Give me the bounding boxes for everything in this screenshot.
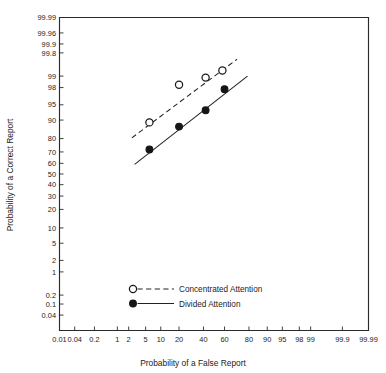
filled-circle-icon — [130, 300, 137, 307]
x-tick-label: 40 — [199, 335, 207, 344]
x-axis: 0.010.040.212510204060809095989999.999.9… — [52, 327, 377, 345]
y-tick-label: 2 — [52, 256, 56, 265]
open-circle-marker — [175, 81, 182, 88]
legend-entry-label: Concentrated Attention — [179, 285, 263, 294]
y-tick-label: 98 — [48, 83, 56, 92]
x-tick-label: 90 — [263, 335, 271, 344]
filled-circle-marker — [176, 123, 183, 130]
y-tick-label: 90 — [48, 116, 56, 125]
y-tick-label: 10 — [48, 224, 56, 233]
probability-plot-figure: 0.040.10.212510203040506070809095989999.… — [0, 0, 386, 373]
y-tick-label: 60 — [48, 159, 56, 168]
x-tick-label: 99.99 — [359, 335, 378, 344]
x-tick-label: 98 — [295, 335, 303, 344]
x-axis-title: Probability of a False Report — [140, 358, 246, 368]
axes-spines — [60, 18, 369, 331]
y-tick-label: 99.9 — [42, 40, 56, 49]
x-tick-label: 1 — [115, 335, 119, 344]
x-tick-label: 2 — [127, 335, 131, 344]
x-tick-label: 60 — [220, 335, 228, 344]
y-tick-label: 99.8 — [42, 49, 56, 58]
y-tick-label: 5 — [52, 239, 56, 248]
y-axis-title: Probability of a Correct Report — [5, 118, 15, 231]
x-tick-label: 99 — [307, 335, 315, 344]
y-tick-label: 80 — [48, 134, 56, 143]
x-tick-label: 95 — [278, 335, 286, 344]
x-tick-label: 20 — [175, 335, 183, 344]
y-tick-label: 99.96 — [38, 29, 57, 38]
y-tick-label: 99.99 — [38, 13, 57, 22]
x-tick-label: 5 — [144, 335, 148, 344]
open-circle-icon — [129, 285, 136, 292]
y-tick-label: 70 — [48, 148, 56, 157]
legend-entry-label: Divided Attention — [179, 300, 241, 309]
filled-circle-marker — [221, 86, 228, 93]
x-tick-label: 10 — [157, 335, 165, 344]
y-tick-label: 0.04 — [42, 311, 56, 320]
open-circle-marker — [146, 119, 153, 126]
x-tick-label: 0.2 — [89, 335, 99, 344]
chart-legend: Concentrated AttentionDivided Attention — [129, 285, 262, 309]
x-tick-label: 0.04 — [68, 335, 82, 344]
y-tick-label: 99 — [48, 72, 56, 81]
y-tick-label: 50 — [48, 170, 56, 179]
data-points — [146, 67, 228, 153]
y-tick-label: 0.1 — [46, 300, 56, 309]
x-tick-label: 80 — [245, 335, 253, 344]
open-circle-marker — [202, 74, 209, 81]
x-tick-label: 99.9 — [335, 335, 349, 344]
y-tick-label: 95 — [48, 100, 56, 109]
x-tick-label: 0.01 — [52, 335, 66, 344]
axes-frame — [60, 18, 369, 331]
y-tick-label: 40 — [48, 180, 56, 189]
y-tick-label: 0.2 — [46, 291, 56, 300]
y-tick-label: 20 — [48, 205, 56, 214]
chart-canvas: 0.040.10.212510203040506070809095989999.… — [0, 0, 386, 373]
filled-circle-marker — [202, 107, 209, 114]
y-tick-label: 1 — [52, 268, 56, 277]
open-circle-marker — [219, 67, 226, 74]
y-tick-label: 30 — [48, 192, 56, 201]
filled-circle-marker — [146, 146, 153, 153]
